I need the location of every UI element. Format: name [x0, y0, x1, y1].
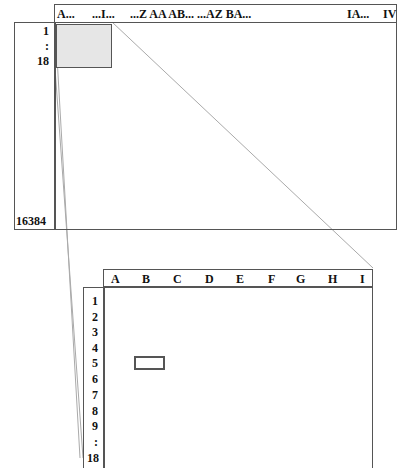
detail-col-e: E [236, 273, 244, 285]
detail-col-g: G [296, 273, 305, 285]
selected-cell-b5[interactable] [134, 356, 165, 370]
detail-grid-area [103, 287, 373, 468]
col-label-z-ba: ...Z AA AB... ...AZ BA... [130, 8, 251, 20]
detail-col-i: I [360, 273, 365, 285]
col-label-ia: IA... [347, 8, 369, 20]
detail-col-a: A [111, 273, 120, 285]
col-label-a: A... [57, 8, 75, 20]
col-label-i: ...I... [92, 8, 115, 20]
detail-row-2: 2 [92, 311, 98, 323]
detail-col-h: H [328, 273, 337, 285]
detail-row-7: 7 [92, 389, 98, 401]
row-label-18: 18 [37, 55, 49, 67]
detail-row-4: 4 [92, 342, 98, 354]
detail-row-6: 6 [92, 373, 98, 385]
detail-row-18: 18 [87, 452, 99, 464]
detail-row-ellipsis: : [94, 436, 98, 448]
col-label-iv: IV [383, 8, 396, 20]
detail-row-5: 5 [92, 357, 98, 369]
detail-row-9: 9 [92, 420, 98, 432]
detail-col-c: C [173, 273, 182, 285]
row-label-ellipsis: : [45, 40, 49, 52]
detail-col-b: B [142, 273, 150, 285]
row-label-16384: 16384 [16, 215, 46, 227]
row-label-1: 1 [43, 25, 49, 37]
detail-col-d: D [205, 273, 214, 285]
detail-row-3: 3 [92, 326, 98, 338]
detail-col-f: F [268, 273, 275, 285]
detail-row-1: 1 [92, 295, 98, 307]
overview-row-header [14, 22, 56, 230]
highlight-region-a1-i18 [56, 24, 112, 68]
detail-row-8: 8 [92, 405, 98, 417]
